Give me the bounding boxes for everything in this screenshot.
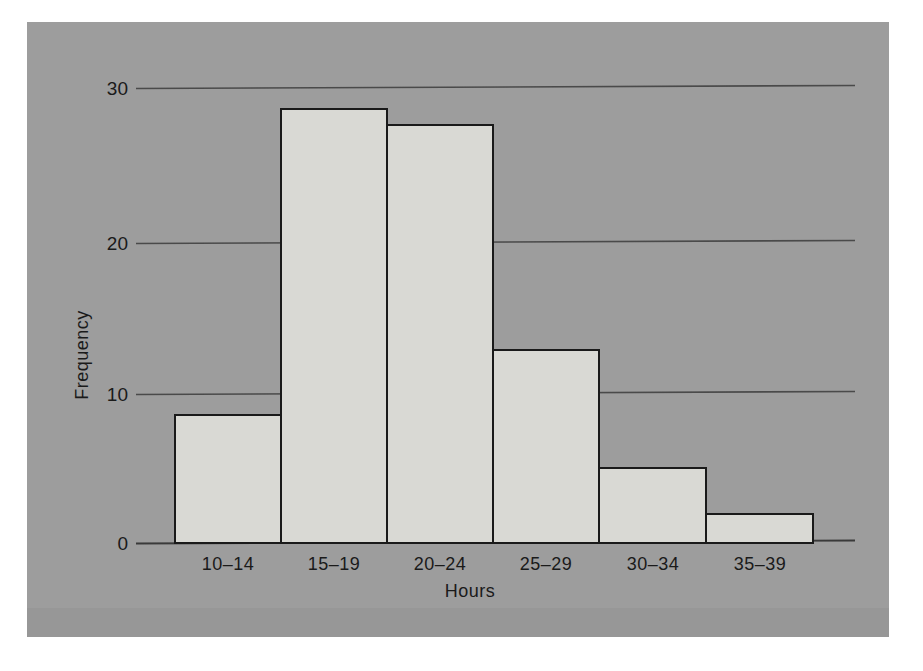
gridline-20 — [136, 241, 855, 244]
x-tick-label-2: 20–24 — [414, 554, 467, 574]
x-tick-label-5: 35–39 — [734, 554, 787, 574]
y-tick-label-30: 30 — [107, 78, 128, 99]
bar-20-24[interactable] — [387, 125, 493, 543]
bar-15-19[interactable] — [281, 109, 387, 543]
y-tick-label-20: 20 — [107, 233, 128, 254]
gridlines — [136, 86, 855, 395]
bar-25-29[interactable] — [493, 350, 599, 543]
x-tick-label-3: 25–29 — [520, 554, 573, 574]
x-tick-label-0: 10–14 — [202, 554, 255, 574]
y-tick-label-10: 10 — [107, 384, 128, 405]
figure-canvas: 30 20 10 0 Frequency 10–14 15–19 20–24 2… — [0, 0, 923, 671]
histogram-chart: 30 20 10 0 Frequency 10–14 15–19 20–24 2… — [0, 0, 923, 671]
bar-series — [175, 109, 813, 543]
y-tick-label-0: 0 — [117, 533, 128, 554]
x-axis-title: Hours — [445, 581, 496, 601]
y-axis-title: Frequency — [72, 310, 92, 400]
x-tick-label-1: 15–19 — [308, 554, 361, 574]
bar-35-39[interactable] — [706, 514, 813, 543]
x-tick-label-4: 30–34 — [627, 554, 680, 574]
bar-30-34[interactable] — [599, 468, 706, 543]
bar-10-14[interactable] — [175, 415, 281, 543]
gridline-30 — [136, 86, 855, 89]
